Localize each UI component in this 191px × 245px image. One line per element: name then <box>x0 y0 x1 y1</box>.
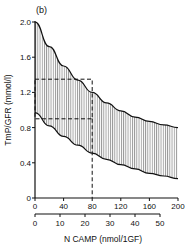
y-tick-label: 2.0 <box>20 18 32 27</box>
y-tick-label: 0.8 <box>20 124 32 133</box>
x-tick-label: 120 <box>114 202 128 211</box>
secondary-x-tick-label: 20 <box>81 219 90 228</box>
panel-label: (b) <box>36 5 47 15</box>
secondary-x-tick-label: 30 <box>106 219 115 228</box>
secondary-x-tick-label: 10 <box>56 219 65 228</box>
y-tick-label: 0.4 <box>20 159 32 168</box>
y-axis-label: TmP/GFR (mmol/l) <box>3 74 13 145</box>
x-tick-label: 0 <box>33 202 38 211</box>
secondary-x-tick-label: 50 <box>156 219 165 228</box>
plot-area: 00.40.81.21.62.0040801201602000102030405… <box>20 18 185 228</box>
chart: 00.40.81.21.62.0040801201602000102030405… <box>0 0 191 245</box>
secondary-x-tick-label: 40 <box>131 219 140 228</box>
x-axis-label: N CAMP (nmol/1GF) <box>64 234 142 244</box>
x-tick-label: 40 <box>59 202 68 211</box>
y-tick-label: 0 <box>27 194 32 203</box>
y-tick-label: 1.6 <box>20 53 32 62</box>
x-tick-label: 200 <box>171 202 185 211</box>
secondary-x-tick-label: 0 <box>33 219 38 228</box>
x-tick-label: 160 <box>143 202 157 211</box>
y-tick-label: 1.2 <box>20 88 32 97</box>
shaded-band <box>35 22 178 179</box>
x-tick-label: 80 <box>88 202 97 211</box>
